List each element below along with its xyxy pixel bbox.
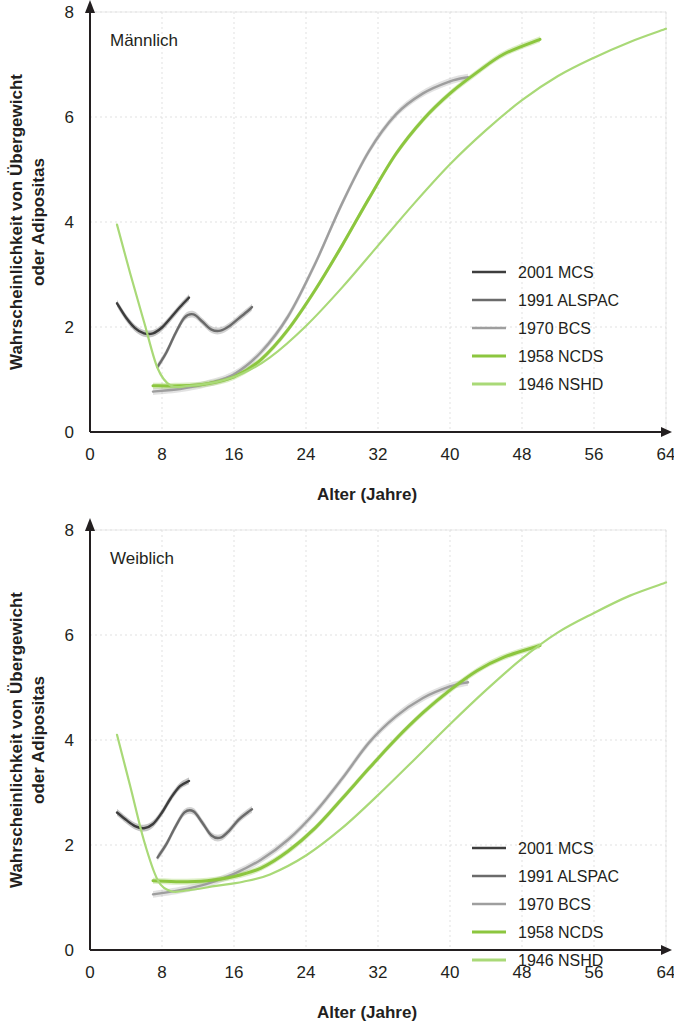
- chart-svg-male: 081624324048566402468 2001 MCS1991 ALSPA…: [0, 0, 674, 517]
- legend-label-1946-nshd: 1946 NSHD: [518, 952, 603, 969]
- legend-label-1970-bcs: 1970 BCS: [518, 320, 591, 337]
- legend-label-1991-alspac: 1991 ALSPAC: [518, 292, 619, 309]
- panel-title-male: Männlich: [110, 31, 178, 50]
- gridlines-male: [90, 12, 666, 432]
- legend-label-2001-mcs: 2001 MCS: [518, 840, 594, 857]
- x-tick-label: 8: [157, 963, 166, 982]
- series-lines-male: [117, 29, 666, 392]
- series-line-1958-ncds: [153, 646, 540, 882]
- x-tick-label: 64: [657, 445, 674, 464]
- x-tick-label: 16: [225, 963, 244, 982]
- y-axis-title-female-line1: Wahrscheinlichkeit von Übergewicht: [7, 592, 26, 888]
- x-tick-label: 48: [513, 445, 532, 464]
- y-axis-title-male-line1: Wahrscheinlichkeit von Übergewicht: [7, 74, 26, 370]
- gridlines-female: [90, 530, 666, 950]
- series-band-1958-ncds: [153, 36, 540, 389]
- series-bands-female: [117, 643, 540, 898]
- y-tick-label: 4: [65, 213, 74, 232]
- chart-panel-female: 081624324048566402468 2001 MCS1991 ALSPA…: [0, 518, 674, 1035]
- series-bands-male: [117, 36, 540, 395]
- x-tick-label: 40: [441, 963, 460, 982]
- y-axis-title-female-line2: oder Adipositas: [29, 676, 48, 804]
- series-line-1991-alspac: [158, 809, 253, 857]
- y-tick-label: 8: [65, 3, 74, 22]
- x-tick-label: 24: [297, 963, 316, 982]
- x-tick-label: 24: [297, 445, 316, 464]
- tick-labels-male: 081624324048566402468: [65, 3, 674, 464]
- x-tick-label: 32: [369, 963, 388, 982]
- x-tick-label: 40: [441, 445, 460, 464]
- y-tick-label: 0: [65, 423, 74, 442]
- legend-label-1991-alspac: 1991 ALSPAC: [518, 868, 619, 885]
- panel-title-female: Weiblich: [110, 549, 174, 568]
- y-tick-label: 2: [65, 836, 74, 855]
- x-tick-label: 64: [657, 963, 674, 982]
- legend-label-1970-bcs: 1970 BCS: [518, 896, 591, 913]
- series-line-1958-ncds: [153, 39, 540, 386]
- legend-label-1946-nshd: 1946 NSHD: [518, 376, 603, 393]
- legend-label-1958-ncds: 1958 NCDS: [518, 924, 603, 941]
- y-tick-label: 6: [65, 626, 74, 645]
- x-axis-title-female: Alter (Jahre): [317, 1003, 417, 1022]
- chart-panel-male: 081624324048566402468 2001 MCS1991 ALSPA…: [0, 0, 674, 517]
- y-tick-label: 0: [65, 941, 74, 960]
- x-tick-label: 0: [85, 445, 94, 464]
- series-band-1970-bcs: [153, 679, 468, 898]
- x-tick-label: 32: [369, 445, 388, 464]
- y-tick-label: 4: [65, 731, 74, 750]
- legend-label-2001-mcs: 2001 MCS: [518, 264, 594, 281]
- y-tick-label: 6: [65, 108, 74, 127]
- y-axis-title-male-line2: oder Adipositas: [29, 158, 48, 286]
- chart-svg-female: 081624324048566402468 2001 MCS1991 ALSPA…: [0, 518, 674, 1035]
- axes-male: [85, 0, 672, 437]
- x-tick-label: 16: [225, 445, 244, 464]
- x-tick-label: 56: [585, 445, 604, 464]
- x-tick-label: 0: [85, 963, 94, 982]
- legend-male: 2001 MCS1991 ALSPAC1970 BCS1958 NCDS1946…: [472, 264, 619, 393]
- y-tick-label: 2: [65, 318, 74, 337]
- x-axis-title-male: Alter (Jahre): [317, 485, 417, 504]
- x-tick-label: 8: [157, 445, 166, 464]
- figure-root: 081624324048566402468 2001 MCS1991 ALSPA…: [0, 0, 674, 1035]
- legend-label-1958-ncds: 1958 NCDS: [518, 348, 603, 365]
- y-tick-label: 8: [65, 521, 74, 540]
